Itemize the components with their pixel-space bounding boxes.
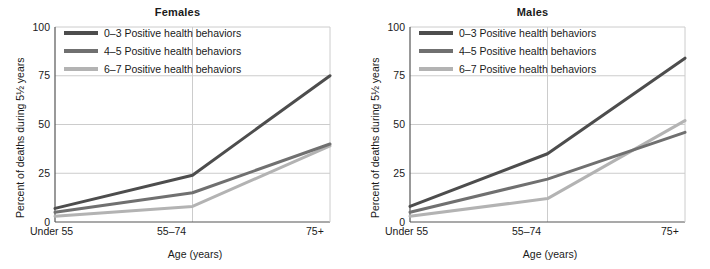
- legend-females: 0–3 Positive health behaviors 4–5 Positi…: [64, 27, 241, 75]
- legend-label-0-3: 0–3 Positive health behaviors: [104, 27, 241, 39]
- legend-label-6-7: 6–7 Positive health behaviors: [459, 63, 596, 75]
- plot-area-females: 0–3 Positive health behaviors 4–5 Positi…: [0, 0, 355, 269]
- figure-two-panel-line-charts: Females Percent of deaths during 5½ year…: [0, 0, 710, 269]
- legend-label-6-7: 6–7 Positive health behaviors: [104, 63, 241, 75]
- legend-label-4-5: 4–5 Positive health behaviors: [459, 45, 596, 57]
- legend-label-4-5: 4–5 Positive health behaviors: [104, 45, 241, 57]
- panel-females: Females Percent of deaths during 5½ year…: [0, 0, 355, 269]
- legend-label-0-3: 0–3 Positive health behaviors: [459, 27, 596, 39]
- panel-males: Males Percent of deaths during 5½ years …: [355, 0, 710, 269]
- legend-males: 0–3 Positive health behaviors 4–5 Positi…: [419, 27, 596, 75]
- plot-area-males: 0–3 Positive health behaviors 4–5 Positi…: [355, 0, 710, 269]
